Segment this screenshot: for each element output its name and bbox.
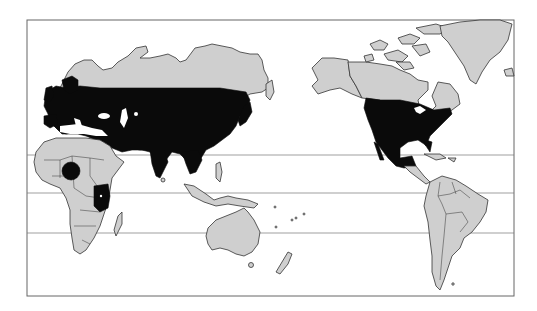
world-map (0, 0, 537, 311)
hole-east-africa-lake (100, 195, 102, 197)
range-indochina (182, 150, 202, 174)
range-florida (426, 140, 432, 152)
land-arctic-islands (364, 24, 448, 70)
land-kamchatka (266, 80, 274, 100)
land-sri-lanka (161, 178, 165, 182)
land-falklands (452, 283, 454, 285)
land-africa (34, 138, 124, 254)
land-tasmania (249, 263, 254, 268)
range-india (150, 150, 168, 178)
hole-aral (134, 112, 138, 116)
pacific-islands (274, 206, 305, 228)
range-east-africa (94, 184, 110, 212)
land-philippines (216, 162, 222, 182)
land-new-zealand (276, 252, 292, 274)
land-australia (206, 208, 260, 256)
land-greenland (440, 20, 512, 84)
range-west-africa (62, 162, 80, 180)
land-central-america (404, 166, 430, 184)
hole-black-sea (98, 113, 110, 119)
land-madagascar (114, 212, 122, 236)
land-indonesia (184, 184, 258, 208)
land-iceland (504, 68, 514, 76)
